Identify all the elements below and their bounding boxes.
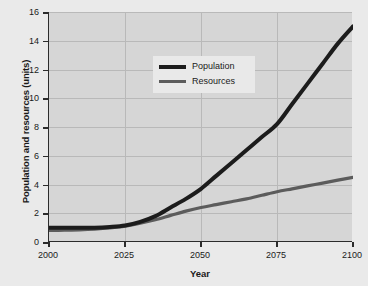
x-tick-mark	[48, 242, 50, 247]
legend-swatch-resources	[159, 80, 186, 83]
y-tick-mark	[43, 98, 48, 100]
chart-legend: Population Resources	[153, 56, 255, 93]
series-line-resources	[49, 177, 353, 230]
series-curves	[49, 12, 353, 242]
legend-item-resources: Resources	[159, 74, 251, 89]
x-tick-label: 2050	[170, 250, 230, 260]
y-tick-label: 2	[0, 208, 39, 218]
x-tick-label: 2025	[94, 250, 154, 260]
y-tick-label: 14	[0, 36, 39, 46]
legend-label-population: Population	[192, 62, 235, 71]
y-tick-mark	[43, 185, 48, 187]
x-tick-mark	[200, 242, 202, 247]
y-tick-label: 6	[0, 151, 39, 161]
y-tick-label: 10	[0, 93, 39, 103]
x-axis-title: Year	[48, 268, 352, 279]
y-tick-label: 0	[0, 237, 39, 247]
y-tick-mark	[43, 156, 48, 158]
legend-item-population: Population	[159, 59, 251, 74]
x-tick-mark	[276, 242, 278, 247]
legend-swatch-population	[159, 65, 186, 69]
y-tick-label: 16	[0, 7, 39, 17]
legend-label-resources: Resources	[192, 77, 235, 86]
x-tick-mark	[352, 242, 354, 247]
y-tick-mark	[43, 70, 48, 72]
y-tick-mark	[43, 127, 48, 129]
x-tick-label: 2000	[18, 250, 78, 260]
x-tick-label: 2075	[246, 250, 306, 260]
plot-area: Population Resources	[48, 12, 352, 242]
x-tick-label: 2100	[322, 250, 368, 260]
y-tick-mark	[43, 12, 48, 14]
y-tick-label: 4	[0, 180, 39, 190]
y-tick-label: 8	[0, 122, 39, 132]
y-tick-mark	[43, 213, 48, 215]
y-tick-mark	[43, 41, 48, 43]
line-chart: Population and resources (units) Populat…	[0, 0, 368, 286]
y-tick-label: 12	[0, 65, 39, 75]
x-tick-mark	[124, 242, 126, 247]
